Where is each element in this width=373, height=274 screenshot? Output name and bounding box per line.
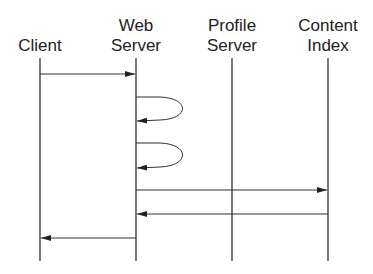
sequence-diagram-canvas (0, 0, 373, 274)
self-message-web-2 (136, 143, 183, 168)
self-message-web-1 (136, 97, 183, 121)
